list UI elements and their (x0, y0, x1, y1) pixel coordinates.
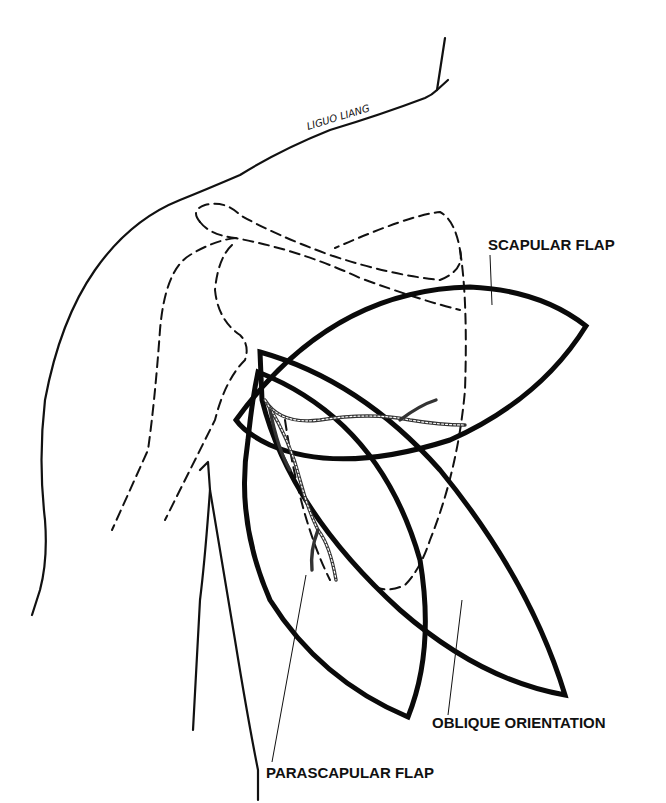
scapula-lateral-border-dashed (112, 238, 236, 530)
scapula-spine-dashed (200, 222, 460, 310)
label-scapular-flap: SCAPULAR FLAP (488, 236, 615, 253)
oblique-leader (448, 600, 462, 715)
scapular-flap-outline (236, 287, 586, 459)
vessel-branches (265, 400, 465, 580)
axilla-contour (193, 462, 210, 730)
label-parascapular-flap: PARASCAPULAR FLAP (266, 764, 434, 781)
scapula-outline-dashed (196, 204, 461, 280)
scapula-glenoid-dashed (165, 245, 247, 520)
parascapular-leader (272, 575, 306, 762)
scapular-flap-leader (490, 255, 492, 305)
flap-diagram: LIGUO LIANG SCAPULAR FLAP OBLIQUE ORIENT… (0, 0, 666, 803)
label-oblique-orientation: OBLIQUE ORIENTATION (432, 714, 606, 731)
shoulder-contour (32, 38, 445, 615)
